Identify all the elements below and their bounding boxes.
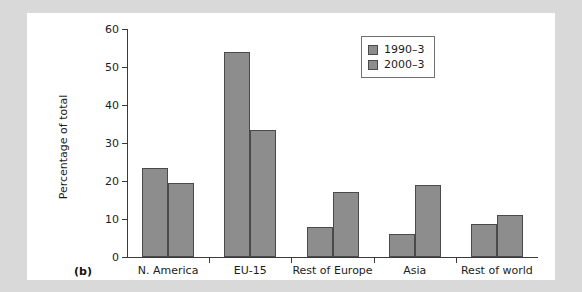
bar <box>224 52 250 257</box>
y-tick-mark <box>122 29 127 30</box>
bar <box>333 192 359 257</box>
bar <box>497 215 523 257</box>
y-tick-mark <box>122 181 127 182</box>
bar <box>168 183 194 257</box>
y-tick-mark <box>122 67 127 68</box>
y-tick-label: 30 <box>105 138 119 149</box>
figure-root: (b) Percentage of total 0102030405060 N.… <box>0 0 582 292</box>
y-tick-mark <box>122 143 127 144</box>
panel-letter: (b) <box>74 265 92 278</box>
x-category-label: Rest of world <box>461 265 533 276</box>
x-category-label: Asia <box>403 265 426 276</box>
y-tick-label: 20 <box>105 176 119 187</box>
bar-group <box>307 29 359 257</box>
legend-item[interactable]: 1990–3 <box>368 42 425 57</box>
y-tick-label: 50 <box>105 62 119 73</box>
y-tick-mark <box>122 105 127 106</box>
bar <box>415 185 441 257</box>
y-tick-label: 10 <box>105 214 119 225</box>
x-tick-mark <box>374 258 375 263</box>
bar <box>307 227 333 257</box>
legend-swatch-icon <box>368 45 378 55</box>
x-category-label: EU-15 <box>234 265 267 276</box>
y-tick-label: 0 <box>112 252 119 263</box>
y-axis-title: Percentage of total <box>57 94 70 199</box>
chart-legend: 1990–32000–3 <box>361 36 435 78</box>
x-axis-line <box>127 257 538 258</box>
bar <box>471 224 497 257</box>
y-tick-mark <box>122 219 127 220</box>
legend-label: 1990–3 <box>384 44 425 55</box>
figure-plate: (b) Percentage of total 0102030405060 N.… <box>27 13 555 280</box>
bar <box>250 130 276 257</box>
x-tick-mark <box>209 258 210 263</box>
x-category-label: N. America <box>138 265 199 276</box>
legend-item[interactable]: 2000–3 <box>368 57 425 72</box>
legend-swatch-icon <box>368 60 378 70</box>
legend-label: 2000–3 <box>384 59 425 70</box>
x-tick-mark <box>456 258 457 263</box>
bar <box>142 168 168 257</box>
bar-group <box>142 29 194 257</box>
y-tick-label: 40 <box>105 100 119 111</box>
x-tick-mark <box>291 258 292 263</box>
bar-group <box>471 29 523 257</box>
y-axis-line <box>127 29 128 257</box>
plot-area: 0102030405060 N. AmericaEU-15Rest of Eur… <box>127 29 538 257</box>
y-tick-label: 60 <box>105 24 119 35</box>
y-tick-mark <box>122 257 127 258</box>
x-category-label: Rest of Europe <box>292 265 372 276</box>
bar-group <box>224 29 276 257</box>
bar <box>389 234 415 257</box>
